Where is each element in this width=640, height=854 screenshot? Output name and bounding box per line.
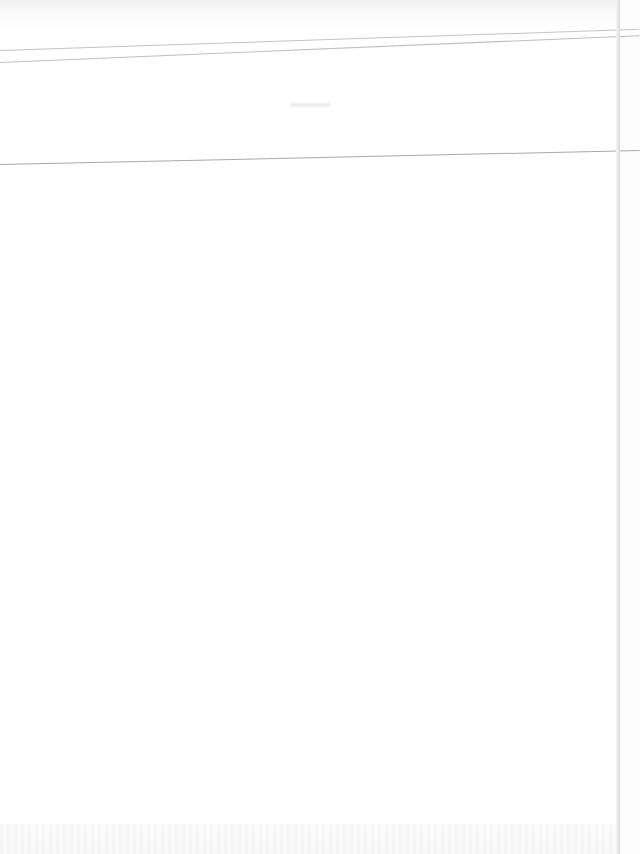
header-bottom-rule xyxy=(0,150,640,165)
illegible-header-text xyxy=(258,88,378,91)
scan-noise-footer xyxy=(0,824,620,854)
illegible-smudge xyxy=(290,103,330,107)
page-edge-shadow xyxy=(616,0,620,854)
